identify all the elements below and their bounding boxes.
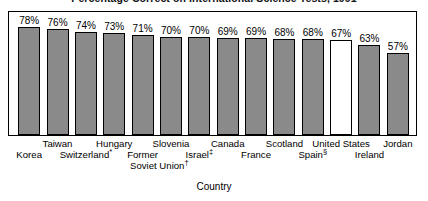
bar-switzerland[interactable] [75,32,97,135]
bar-group: 69% [242,10,270,135]
x-axis-title: Country [0,181,428,192]
category-label-slovenia: Slovenia [153,138,190,149]
category-label-scotland: Scotland [266,138,303,149]
bar-value-label: 69% [218,26,238,37]
bar-group: 63% [355,10,383,135]
bar-value-label: 68% [303,27,323,38]
category-label-hungary: Hungary [96,138,132,149]
bar-ireland[interactable] [358,45,380,135]
bar-value-label: 76% [48,17,68,28]
category-label-jordan: Jordan [383,138,412,149]
bar-value-label: 68% [274,27,294,38]
bar-value-label: 74% [76,20,96,31]
bar-value-label: 67% [331,28,351,39]
category-label-switzerland: Switzerland* [60,149,113,160]
bar-korea[interactable] [18,27,40,135]
bar-taiwan[interactable] [47,29,69,135]
bar-series: 78%76%74%73%71%70%70%69%69%68%68%67%63%5… [9,10,416,135]
bar-group: 68% [299,10,327,135]
bar-slovenia[interactable] [160,37,182,135]
category-label-france: France [241,149,271,160]
bar-value-label: 70% [189,25,209,36]
bar-group: 73% [100,10,128,135]
bar-group: 76% [43,10,71,135]
bar-group: 57% [384,10,412,135]
bar-former[interactable] [132,35,154,135]
bar-group: 71% [128,10,156,135]
category-label-former-soviet-union-line2: Soviet Union† [130,160,189,171]
chart-title: Percentage Correct on International Scie… [0,0,428,4]
bar-value-label: 71% [133,23,153,34]
bar-group: 69% [214,10,242,135]
bar-value-label: 63% [359,33,379,44]
bar-spain[interactable] [302,39,324,135]
bar-canada[interactable] [217,38,239,135]
category-label-taiwan: Taiwan [43,138,73,149]
bar-value-label: 70% [161,25,181,36]
bar-group: 70% [185,10,213,135]
category-label-united-states: United States [312,138,370,149]
x-axis-category-labels: KoreaTaiwanSwitzerland*HungaryFormerSlov… [8,138,417,174]
bar-group: 70% [157,10,185,135]
bar-group: 78% [15,10,43,135]
bar-group: 68% [270,10,298,135]
bar-value-label: 57% [388,41,408,52]
bar-scotland[interactable] [273,39,295,135]
category-label-canada: Canada [211,138,245,149]
bar-group: 74% [72,10,100,135]
bar-value-label: 73% [104,21,124,32]
bar-france[interactable] [245,38,267,135]
bar-value-label: 78% [19,15,39,26]
footnote-marker: † [184,158,188,167]
category-label-spain: Spain§ [298,149,327,160]
category-label-korea: Korea [16,149,42,160]
bar-group: 67% [327,10,355,135]
category-label-ireland: Ireland [355,149,384,160]
bar-hungary[interactable] [103,33,125,135]
bar-jordan[interactable] [387,53,409,135]
category-label-israel: Israel‡ [186,149,214,160]
bar-united-states[interactable] [330,40,352,135]
bar-israel[interactable] [188,37,210,135]
plot-frame: 78%76%74%73%71%70%70%69%69%68%68%67%63%5… [8,11,417,136]
bar-value-label: 69% [246,26,266,37]
category-label-former: Former [127,149,158,160]
